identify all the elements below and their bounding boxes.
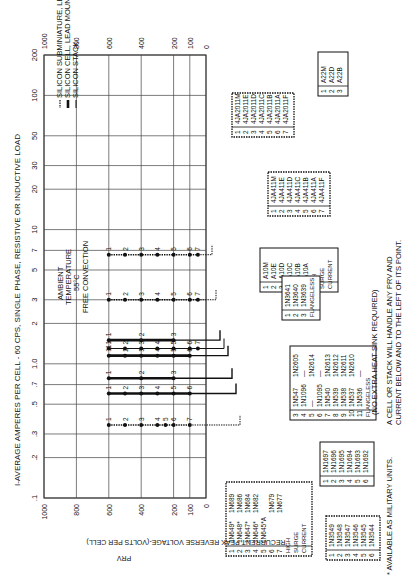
heat-sink-note: (NO EXTRA HEAT SINK REQUIRED) [370,289,379,415]
prv-tick-label-top: 100 [187,37,194,49]
part-box: 1A22M2A22D3A22B [318,52,348,96]
part-box-index: 5 [266,130,273,134]
part-box-footer: CURRENT [301,523,307,553]
part-number: 4JA2011A [274,94,281,124]
series-point-label: 5 [170,292,177,296]
current-tick-label: 1.0 [30,359,39,369]
series-point-label: 1 [105,332,112,336]
part-box-index: 4 [346,479,353,483]
part-box-index: 4 [300,413,307,417]
series-point [123,423,127,427]
part-box-index: 3 [250,130,257,134]
ambient-line-3: 55°C [72,274,81,291]
series-point-label: 2 [138,332,145,336]
x-axis-title: I-AVERAGE AMPERES PER CELL - 60 CPS, SIN… [13,134,22,486]
y-axis-title: RECURRENT PEAK REVERSE VOLTAGE-(VOLTS PE… [86,538,285,546]
part-box-index: 5 [260,549,267,553]
legend: SILICON SUBMINIATURE, LEAD MOUNTED SILIC… [55,0,80,108]
current-tick-label: 20 [30,185,39,193]
military-note: * AVAILABLE AS MILITARY UNITS. [385,457,394,575]
part-number: 1N2610 [348,354,355,377]
part-box-index: 11 [356,410,363,417]
part-number: 1N3548 [336,524,343,547]
part-box-index: 6 [268,549,275,553]
part-box: 11N364121N364031N3639FLANGELESS [282,276,320,320]
series-point-label: 1 [105,386,112,390]
part-number: 1N2614 [308,354,315,377]
part-number: 1N1694 [346,450,353,473]
series-point [107,354,111,358]
current-tick-label: .3 [30,431,39,437]
rectifier-selection-chart: .1.2.3.5.71.0235710203050100200 10001000… [0,0,416,580]
part-box-index: 1 [284,313,291,317]
series-point [107,298,111,302]
current-axis-ticks: .1.2.3.5.71.0235710203050100200 [30,49,39,501]
part-box-index: 3 [338,479,345,483]
prv-tick-label-bottom: 1000 [41,504,48,520]
part-number: — [308,400,315,407]
prv-tick-label-top: 400 [138,37,145,49]
part-number: 4JA411A [310,176,317,203]
series-point [139,392,143,396]
part-number: 4JA411D [286,176,293,203]
series-point-label: 1 [105,341,112,345]
part-number: 1N2612 [332,354,339,377]
current-tick-label: .1 [30,495,39,501]
part-box-index: 5 [302,209,309,213]
series-point [172,354,176,358]
part-number: 1N3547 [344,524,351,547]
part-box-index: 6 [310,209,317,213]
part-box-footer: SURGE [293,532,299,553]
part-box-index: 6 [362,479,369,483]
series-point [123,253,127,257]
series-point-label: 4 [154,417,161,421]
series-point-label: 1 [105,417,112,421]
part-number-boxes: 14JA2011M24JA2011E34JA2011D44JA2011C54JA… [226,52,380,560]
prv-tick-label-bottom: 0 [203,504,210,508]
part-number: 4JA411M [270,176,277,203]
legend-label-stack: SILICON STACK [71,41,80,98]
part-box-index: 7 [276,549,283,553]
part-number: 1N1095 [316,384,323,407]
series-point [155,354,159,358]
series-point-label: 3 [138,292,145,296]
part-number: A22M [320,66,327,83]
part-number: 1N3641 [284,284,291,307]
part-number: 1N540 [324,387,331,407]
part-number: 1N1696 [330,450,337,473]
y-axis-subtitle: PRV [117,555,132,562]
part-number: 1N537 [348,387,355,407]
series-point-label: 3 [138,386,145,390]
series-point [107,376,111,380]
series-layer: 1234567123456712312345671123456123123456… [105,245,240,427]
part-box-index: 7 [324,413,331,417]
chart-stage: .1.2.3.5.71.0235710203050100200 10001000… [0,0,416,580]
part-number: — [300,370,307,377]
part-number: 1N1693 [354,450,361,473]
part-box: 14JA2011M24JA2011E34JA2011D44JA2011C54JA… [232,93,294,137]
series-point [188,253,192,257]
current-tick-label: 5 [30,268,39,272]
series-point [172,423,176,427]
part-number: 1N645*A [260,516,267,543]
part-box-index: 10 [348,409,355,417]
series-point-label: 2 [122,348,129,352]
series-point-label: 1 [105,370,112,374]
part-number: 1N3549 [328,524,335,547]
part-number: 4JA411B [302,177,309,203]
part-box-index: 4 [258,130,265,134]
current-tick-label: 10 [30,225,39,233]
part-box-index: 2 [236,549,243,553]
series-point-label: 3 [170,370,177,374]
part-box: 11N354921N354831N354741N354651N354561N35… [326,516,380,560]
series-point-label: 5 [170,247,177,251]
series-point-label: 3 [138,247,145,251]
part-box-index: 2 [336,553,343,557]
part-box-index: 2 [278,209,285,213]
series-point [172,392,176,396]
series-point [172,253,176,257]
series-point [123,354,127,358]
series-point-label: 11 [105,345,112,352]
series-point [188,298,192,302]
part-box-footer: CURRENT [327,259,333,289]
